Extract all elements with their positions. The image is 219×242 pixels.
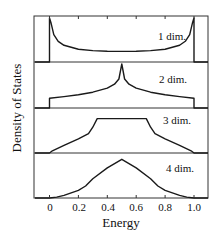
- x-tick-label: 0: [47, 201, 53, 213]
- panel-label-3d: 3 dim.: [163, 114, 191, 126]
- panel-label-2d: 2 dim.: [159, 73, 187, 85]
- x-tick-label: 0.2: [72, 201, 86, 213]
- y-axis-label: Density of States: [9, 64, 24, 153]
- x-tick-label: 1.0: [187, 201, 201, 213]
- x-tick-labels: 0 0.2 0.4 0.6 0.8 1.0: [47, 201, 201, 213]
- dos-curve-2d: [35, 64, 208, 108]
- panel-label-1d: 1 dim.: [158, 30, 186, 42]
- panel-label-4d: 4 dim.: [166, 162, 194, 174]
- x-tick-label: 0.4: [101, 201, 115, 213]
- x-tick-label: 0.6: [129, 201, 143, 213]
- density-of-states-figure: 1 dim. 2 dim. 3 dim. 4 dim. 0 0.2 0.4 0.…: [0, 0, 219, 242]
- x-axis-label: Energy: [102, 215, 140, 230]
- x-tick-label: 0.8: [158, 201, 172, 213]
